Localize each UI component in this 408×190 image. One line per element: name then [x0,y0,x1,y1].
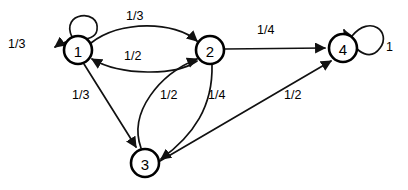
edge-label-4-to-4: 1 [386,41,393,54]
node-3-label: 3 [141,156,149,173]
edge-2-to-1 [92,59,197,72]
edge-label-1-to-3: 1/3 [72,89,89,102]
edge-label-2-to-4: 1/4 [257,24,274,37]
edge-3-to-4 [160,61,331,161]
edge-label-1-to-1: 1/3 [8,38,25,51]
node-1[interactable]: 1 [64,36,92,64]
edge-1-to-2 [91,26,197,43]
graph-svg: 1 2 4 3 [0,0,408,190]
edge-2-to-4 [225,48,325,49]
edge-label-2-to-1: 1/2 [124,50,141,63]
edge-label-2-to-3: 1/4 [208,89,225,102]
edge-label-3-to-4: 1/2 [284,89,301,102]
node-2-label: 2 [206,43,214,60]
node-1-label: 1 [74,43,82,60]
node-2[interactable]: 2 [196,36,224,64]
node-3[interactable]: 3 [131,149,159,177]
node-4[interactable]: 4 [329,34,357,62]
node-4-label: 4 [339,41,347,58]
edge-label-1-to-2: 1/3 [126,10,143,23]
edge-label-3-to-2: 1/2 [160,89,177,102]
edge-1-to-3 [84,64,136,147]
diagram-canvas: 1 2 4 3 1/3 1/3 1/2 1/4 1 1/3 1/2 1/4 1/… [0,0,408,190]
